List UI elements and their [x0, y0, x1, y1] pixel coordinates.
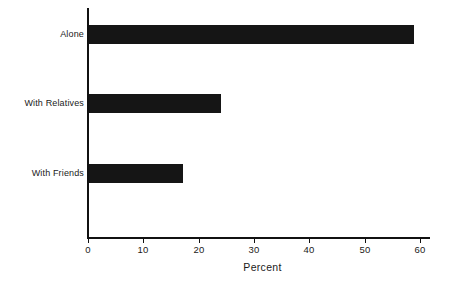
x-axis-title: Percent [0, 261, 453, 273]
x-tick-label-50: 50 [345, 244, 385, 255]
category-label-alone: Alone [0, 29, 84, 39]
category-label-with-friends: With Friends [0, 168, 84, 178]
x-tick-40 [309, 239, 310, 243]
bar-with-friends [89, 164, 183, 183]
x-tick-label-20: 20 [179, 244, 219, 255]
category-label-with-relatives: With Relatives [0, 98, 84, 108]
x-tick-60 [420, 239, 421, 243]
x-tick-20 [199, 239, 200, 243]
x-tick-label-10: 10 [123, 244, 163, 255]
x-tick-10 [143, 239, 144, 243]
x-tick-50 [365, 239, 366, 243]
x-axis-title-text: Percent [243, 261, 281, 273]
bar-with-relatives [89, 94, 221, 113]
x-tick-label-60: 60 [400, 244, 440, 255]
x-tick-label-40: 40 [289, 244, 329, 255]
x-tick-label-0: 0 [68, 244, 108, 255]
bar-chart: Alone With Relatives With Friends 0 10 2… [0, 0, 453, 286]
bar-alone [89, 25, 414, 44]
x-tick-0 [88, 239, 89, 243]
x-axis-line [87, 237, 430, 239]
x-tick-30 [254, 239, 255, 243]
x-tick-label-30: 30 [234, 244, 274, 255]
